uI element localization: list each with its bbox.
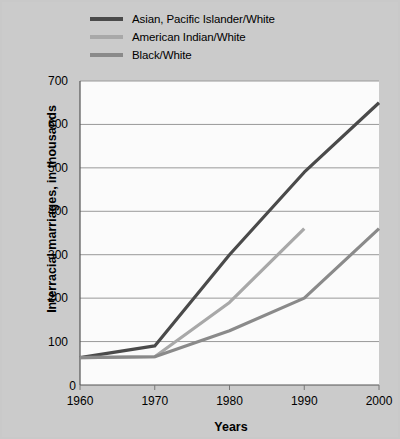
x-axis-tick-label: 2000 <box>349 395 400 407</box>
y-axis-title: Interracial marriages, in thousands <box>45 79 59 339</box>
plot-background <box>80 81 379 385</box>
chart-container: Asian, Pacific Islander/White American I… <box>0 0 400 439</box>
x-axis-tick-label: 1960 <box>50 395 110 407</box>
x-axis-tick-label: 1990 <box>274 395 334 407</box>
y-axis-zero-label: 0 <box>56 379 76 393</box>
plot-svg <box>2 2 400 439</box>
x-axis-tick-label: 1970 <box>125 395 185 407</box>
x-tick-marks <box>80 385 379 390</box>
chart-frame: Asian, Pacific Islander/White American I… <box>2 2 398 437</box>
plot-area: 700600500400300200100 0 1960197019801990… <box>2 2 400 439</box>
x-axis-title: Years <box>80 420 382 434</box>
x-axis-tick-label: 1980 <box>200 395 260 407</box>
